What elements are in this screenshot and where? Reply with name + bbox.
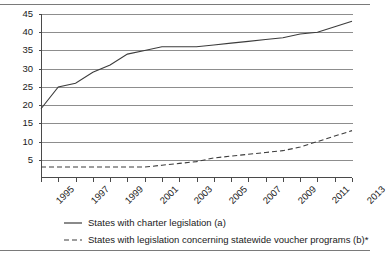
x-axis-tick-label: 2003: [192, 184, 214, 206]
y-axis-tick-label: 35: [22, 46, 33, 56]
legend-item: States with charter legislation (a): [0, 214, 370, 231]
y-axis-tick-label: 40: [22, 27, 33, 37]
legend-item-label: States with legislation concerning state…: [88, 234, 368, 245]
x-axis-tick-label: 2005: [227, 184, 249, 206]
legend-item: States with legislation concerning state…: [0, 231, 370, 248]
y-axis-tick-label: 5: [28, 155, 33, 165]
legend-item-label: States with charter legislation (a): [88, 217, 226, 228]
x-axis-tick-label: 1995: [54, 184, 76, 206]
series-layer: [41, 14, 352, 178]
y-axis-tick-label: 10: [22, 137, 33, 147]
bottom-divider-rule: [0, 250, 370, 251]
y-axis-tick-label: 20: [22, 100, 33, 110]
y-axis-labels: 51015202530354045: [0, 14, 41, 178]
series-voucher-programs-line: [41, 131, 352, 167]
x-axis-tick-label: 2011: [330, 184, 352, 206]
x-axis-tick-label: 2001: [158, 184, 180, 206]
x-axis-tick-label: 1999: [123, 184, 145, 206]
x-axis-tick-label: 2007: [262, 184, 284, 206]
series-charter-legislation-line: [41, 21, 352, 108]
x-axis-tick-label: 2009: [296, 184, 318, 206]
plot-wrapper: 51015202530354045 1995199719992001200320…: [0, 8, 370, 188]
y-axis-tick-label: 45: [22, 9, 33, 19]
dashed-line-key-icon: [64, 235, 82, 245]
y-axis-tick-label: 15: [22, 119, 33, 129]
chart-legend: States with charter legislation (a) Stat…: [0, 214, 370, 248]
x-axis-tick-label: 1997: [89, 184, 111, 206]
solid-line-key-icon: [64, 218, 82, 228]
y-axis-tick-label: 30: [22, 64, 33, 74]
y-axis-tick-label: 25: [22, 82, 33, 92]
x-axis-tick-label: 2013: [365, 184, 387, 206]
